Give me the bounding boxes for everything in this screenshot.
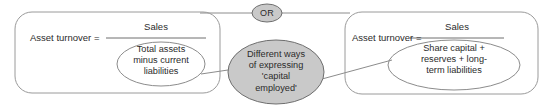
center-node-line-1: Different ways xyxy=(231,49,321,60)
center-node-line-4: employed' xyxy=(231,83,321,94)
right-denominator-line-3: term liabilities xyxy=(392,65,516,76)
right-denominator-line-1: Share capital + xyxy=(392,43,516,54)
left-numerator: Sales xyxy=(144,22,168,33)
diagram-canvas: OR Asset turnover = Sales Total assets m… xyxy=(0,0,554,111)
right-numerator: Sales xyxy=(445,22,469,33)
center-node-line-3: 'capital xyxy=(231,71,321,82)
left-denominator-line-1: Total assets xyxy=(118,44,204,55)
left-formula-label: Asset turnover = xyxy=(30,33,99,44)
right-denominator: Share capital + reserves + long- term li… xyxy=(392,43,516,77)
left-denominator: Total assets minus current liabilities xyxy=(118,44,204,78)
right-denominator-line-2: reserves + long- xyxy=(392,54,516,65)
center-node-label: Different ways of expressing 'capital em… xyxy=(231,49,321,94)
left-denominator-line-2: minus current xyxy=(118,55,204,66)
connector-left-denominator-to-center xyxy=(201,70,228,74)
or-badge-label: OR xyxy=(260,8,274,18)
connector-center-to-right-denominator xyxy=(322,60,392,79)
center-node-line-2: of expressing xyxy=(231,60,321,71)
left-denominator-line-3: liabilities xyxy=(118,66,204,77)
